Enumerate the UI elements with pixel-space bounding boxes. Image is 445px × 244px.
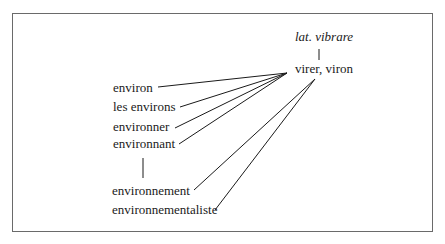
derivative-environ: environ	[113, 81, 153, 94]
derivative-environner: environner	[113, 120, 169, 133]
stem-label: virer, viron	[295, 62, 353, 75]
les-environs-line	[180, 73, 287, 107]
derivative-les-environs: les environs	[113, 100, 175, 113]
derivative-environnementaliste: environnementaliste	[112, 203, 217, 216]
environnant-line	[179, 73, 287, 144]
environnementaliste-line	[215, 79, 315, 210]
environnement-line	[194, 79, 315, 190]
environ-line	[158, 73, 287, 87]
derivative-environnant: environnant	[113, 137, 175, 150]
connector-lines	[0, 0, 445, 244]
root-label: lat. vibrare	[295, 30, 353, 43]
derivative-environnement: environnement	[112, 184, 190, 197]
